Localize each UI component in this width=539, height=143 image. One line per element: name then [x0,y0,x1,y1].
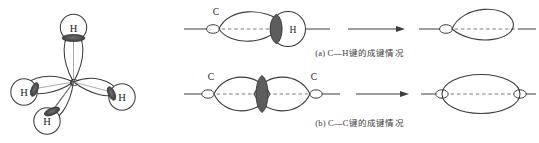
transform-arrow-a [348,26,405,32]
methane-model-svg: H H H H C [0,0,180,143]
sigma-bond-orbital-a [452,9,513,40]
carbon-label-right-b: C [311,72,317,82]
methane-model-panel: H H H H C [0,0,180,143]
c-c-bond-panel: C C (b) C—C键的成键情况 [180,66,539,143]
carbon-label-center: C [70,76,77,88]
overlap-region-b [256,76,268,113]
overlap-lens-top [62,34,85,41]
c-c-bond-svg: C C [180,66,539,143]
c-c-after-group [421,75,536,114]
hydrogen-label-top: H [70,23,78,34]
carbon-label-a: C [213,7,219,17]
hydrogen-label-right: H [118,92,126,103]
overlap-region-a [270,14,282,44]
figure-root: H H H H C [0,0,539,143]
c-h-bond-panel: C H (a) C—H键的成键情况 [180,0,539,66]
hydrogen-label-front: H [43,116,51,127]
c-c-before-group: C C [184,72,340,113]
sp3-back-lobe-right-b [310,90,322,98]
c-h-before-group: C H [184,7,330,47]
sigma-back-lobe-a [440,25,453,34]
carbon-label-left-b: C [208,72,214,82]
caption-c-h-bond: (a) C—H键的成键情况 [180,46,539,58]
c-h-after-group [419,9,536,40]
sp3-back-lobe-left-b [202,90,214,98]
transform-arrow-b [356,91,409,97]
hydrogen-label-a: H [290,25,297,35]
sp3-back-lobe-a [207,25,220,34]
hydrogen-label-left: H [20,87,28,98]
caption-c-c-bond: (b) C—C键的成键情况 [180,116,539,128]
